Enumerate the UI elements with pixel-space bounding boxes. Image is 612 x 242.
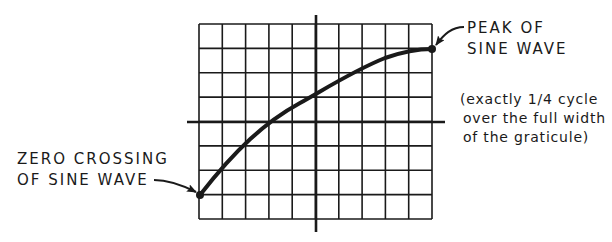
zero-crossing-label-line-1: ZERO CROSSING [17,149,169,170]
note-line-2: over the full width [460,109,606,128]
peak-label: PEAK OF SINE WAVE [467,18,567,60]
quarter-cycle-note: (exactly 1/4 cycle over the full width o… [460,90,606,147]
peak-label-line-1: PEAK OF [467,18,567,39]
note-line-1: (exactly 1/4 cycle [460,90,606,109]
zero-crossing-point [196,191,204,199]
center-axes [187,15,445,232]
zero-crossing-label: ZERO CROSSING OF SINE WAVE [17,149,169,191]
peak-point [428,45,436,53]
peak-leader-arrow [436,27,464,45]
note-line-3: of the graticule) [460,128,606,147]
peak-label-line-2: SINE WAVE [467,39,567,60]
zero-crossing-label-line-2: OF SINE WAVE [17,170,169,191]
